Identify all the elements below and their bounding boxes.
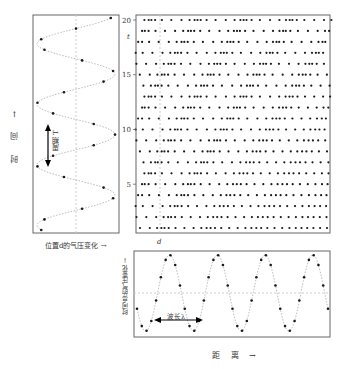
- molecule-dot: [231, 85, 233, 87]
- molecule-dot: [155, 63, 157, 65]
- molecule-dot: [143, 19, 145, 21]
- molecule-dot: [302, 74, 304, 76]
- distance-label: 距 离 →: [212, 349, 260, 360]
- molecule-dot: [234, 216, 236, 218]
- molecule-dot: [187, 41, 189, 43]
- molecule-dot: [245, 19, 247, 21]
- molecule-dot: [253, 107, 255, 109]
- molecule-dot: [187, 107, 189, 109]
- left-curve-point: [40, 229, 43, 232]
- molecule-dot: [288, 227, 290, 229]
- molecule-dot: [300, 117, 302, 119]
- molecule-dot: [203, 161, 205, 163]
- left-curve-point: [92, 123, 95, 126]
- molecule-dot: [238, 117, 240, 119]
- molecule-dot: [246, 183, 248, 185]
- molecule-dot: [319, 205, 321, 207]
- molecule-dot: [252, 150, 254, 152]
- bottom-curve-point: [188, 325, 191, 328]
- molecule-dot: [303, 139, 305, 141]
- molecule-dot: [200, 19, 202, 21]
- molecule-dot: [208, 107, 210, 109]
- molecule-dot: [250, 227, 252, 229]
- molecule-dot: [180, 139, 182, 141]
- molecule-dot: [282, 74, 284, 76]
- molecule-dot: [312, 139, 314, 141]
- molecule-dot: [288, 172, 290, 174]
- molecule-dot: [170, 19, 172, 21]
- molecule-dot: [174, 227, 176, 229]
- left-xlabel: 位置d的气压变化 →: [45, 240, 107, 250]
- molecule-dot: [269, 96, 271, 98]
- wavelength-label: 波长λ: [167, 311, 185, 321]
- molecule-dot: [193, 227, 195, 229]
- molecule-dot: [311, 161, 313, 163]
- molecule-dot: [183, 194, 185, 196]
- molecule-dot: [327, 107, 329, 109]
- molecule-dot: [225, 63, 227, 65]
- molecule-dot: [213, 150, 215, 152]
- molecule-dot: [212, 194, 214, 196]
- molecule-dot: [236, 30, 238, 32]
- molecule-dot: [163, 74, 165, 76]
- molecule-dot: [190, 30, 192, 32]
- molecule-dot: [144, 107, 146, 109]
- molecule-dot: [318, 128, 320, 130]
- molecule-dot: [164, 107, 166, 109]
- molecule-dot: [330, 19, 332, 21]
- molecule-dot: [144, 183, 146, 185]
- molecule-dot: [281, 183, 283, 185]
- molecule-dot: [271, 117, 273, 119]
- molecule-dot: [155, 216, 157, 218]
- bottom-curve-point: [327, 308, 330, 311]
- molecule-dot: [306, 227, 308, 229]
- molecule-dot: [277, 183, 279, 185]
- molecule-dot: [324, 30, 326, 32]
- molecule-dot: [272, 128, 274, 130]
- molecule-dot: [234, 63, 236, 65]
- molecule-dot: [168, 117, 170, 119]
- y-ticks: 5101520: [122, 17, 136, 189]
- molecule-dot: [251, 96, 253, 98]
- molecule-dot: [233, 107, 235, 109]
- molecule-dot: [276, 52, 278, 54]
- molecule-dot: [283, 172, 285, 174]
- molecule-dot: [227, 216, 229, 218]
- molecule-dot: [203, 85, 205, 87]
- molecule-dot: [314, 205, 316, 207]
- molecule-dot: [190, 183, 192, 185]
- molecule-dot: [324, 41, 326, 43]
- molecule-dot: [139, 150, 141, 152]
- molecule-dot: [189, 139, 191, 141]
- molecule-dot: [316, 117, 318, 119]
- molecule-dot: [296, 96, 298, 98]
- molecule-dot: [196, 172, 198, 174]
- molecule-dot: [266, 161, 268, 163]
- molecule-dot: [154, 85, 156, 87]
- molecule-dot: [304, 63, 306, 65]
- molecule-dot: [187, 161, 189, 163]
- molecule-dot: [319, 227, 321, 229]
- molecule-dot: [135, 63, 137, 65]
- molecule-dot: [158, 41, 160, 43]
- molecule-dot: [145, 216, 147, 218]
- molecule-dot: [154, 107, 156, 109]
- molecule-dot: [296, 139, 298, 141]
- molecule-dot: [262, 63, 264, 65]
- time-axis-label: 时 间 →: [9, 105, 20, 163]
- molecule-dot: [233, 30, 235, 32]
- molecule-dot: [137, 41, 139, 43]
- bottom-curve-point: [140, 325, 143, 328]
- molecule-dot: [161, 74, 163, 76]
- molecule-dot: [308, 63, 310, 65]
- molecule-dot: [150, 161, 152, 163]
- bottom-panel-frame: [134, 251, 330, 337]
- bottom-curve-point: [145, 329, 148, 332]
- molecule-dot: [290, 161, 292, 163]
- molecule-dot: [189, 63, 191, 65]
- molecule-dot: [285, 128, 287, 130]
- molecule-dot: [220, 128, 222, 130]
- molecule-dot: [135, 139, 137, 141]
- molecule-dot: [148, 194, 150, 196]
- molecule-dot: [313, 216, 315, 218]
